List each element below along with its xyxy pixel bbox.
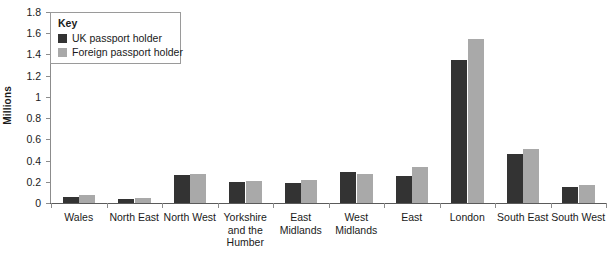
legend-title: Key [58,17,174,29]
bar-foreign [357,174,373,203]
bar-uk [285,183,301,203]
x-tick-mark [273,203,274,208]
bar-uk [507,154,523,203]
x-tick-mark [495,203,496,208]
y-tick-label: 1.8 [0,6,46,18]
x-tick-mark [162,203,163,208]
x-axis-label: Wales [51,211,107,224]
y-tick-label: 0.6 [0,133,46,145]
y-tick-label: 0 [0,197,46,209]
x-tick-mark [551,203,552,208]
bar-group [451,12,484,203]
x-axis-label: West Midlands [329,211,385,236]
bar-foreign [301,180,317,203]
x-tick-mark [329,203,330,208]
x-axis-label: East [384,211,440,224]
y-tick-label: 0.4 [0,155,46,167]
x-tick-mark [440,203,441,208]
bar-uk [451,60,467,203]
y-tick-label: 0.8 [0,112,46,124]
y-axis-ticks: 00.20.40.60.811.21.41.61.8 [0,0,46,253]
x-tick-mark [606,203,607,208]
y-tick-label: 1.4 [0,48,46,60]
y-tick-label: 1 [0,91,46,103]
x-tick-mark [384,203,385,208]
x-tick-mark [107,203,108,208]
x-axis-label: London [440,211,496,224]
bar-uk [562,187,578,203]
bar-uk [118,199,134,203]
bar-group [562,12,595,203]
y-tick-label: 1.6 [0,27,46,39]
legend-label-foreign: Foreign passport holder [72,46,183,58]
bar-foreign [468,39,484,203]
y-tick-label: 0.2 [0,176,46,188]
bar-foreign [412,167,428,203]
legend-swatch-foreign-icon [58,48,67,57]
bar-uk [63,197,79,203]
legend-item-foreign: Foreign passport holder [58,46,174,58]
bar-foreign [135,198,151,203]
legend-item-uk: UK passport holder [58,32,174,44]
x-tick-mark [218,203,219,208]
legend: Key UK passport holder Foreign passport … [50,12,181,64]
bar-foreign [246,181,262,203]
bar-group [507,12,540,203]
x-axis-label: South West [551,211,607,224]
bar-uk [174,175,190,203]
bar-group [229,12,262,203]
x-axis-label: South East [495,211,551,224]
x-axis-label: North West [162,211,218,224]
bar-foreign [190,174,206,203]
bar-foreign [579,185,595,203]
x-tick-mark [51,203,52,208]
bar-group [340,12,373,203]
bar-foreign [523,149,539,203]
legend-label-uk: UK passport holder [72,32,162,44]
bar-foreign [79,195,95,203]
x-axis-label: East Midlands [273,211,329,236]
bar-chart: Millions 00.20.40.60.811.21.41.61.8 Key … [0,0,613,253]
bar-uk [396,176,412,203]
legend-swatch-uk-icon [58,34,67,43]
x-axis-label: North East [107,211,163,224]
bar-group [396,12,429,203]
bar-group [285,12,318,203]
bar-uk [229,182,245,203]
y-tick-label: 1.2 [0,70,46,82]
x-axis-label: Yorkshire and the Humber [218,211,274,249]
bar-uk [340,172,356,203]
